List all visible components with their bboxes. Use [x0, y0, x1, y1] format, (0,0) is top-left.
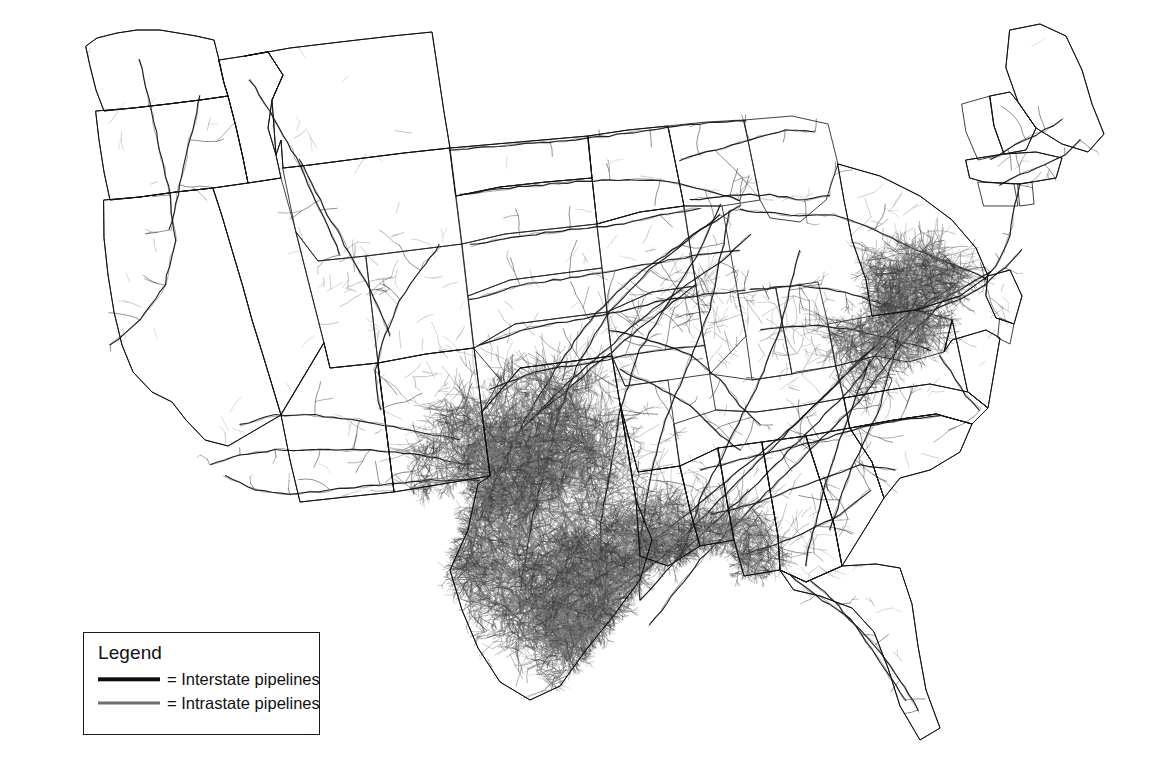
legend-item-interstate: = Interstate pipelines	[98, 671, 319, 688]
legend-item-interstate-label: = Interstate pipelines	[167, 671, 320, 688]
legend-box: Legend = Interstate pipelines = Intrasta…	[83, 632, 320, 735]
pipeline-map-page: Legend = Interstate pipelines = Intrasta…	[0, 0, 1160, 772]
interstate-line-swatch	[98, 674, 160, 684]
intrastate-line-swatch	[98, 698, 160, 708]
legend-title: Legend	[98, 643, 319, 662]
legend-item-intrastate: = Intrastate pipelines	[98, 695, 319, 712]
legend-item-intrastate-label: = Intrastate pipelines	[167, 695, 320, 712]
